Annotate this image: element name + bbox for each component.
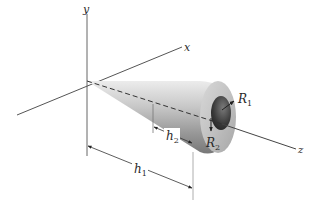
cone-inner-hole (211, 96, 231, 130)
cone-diagram: y x z R1 R2 h2 h1 (0, 0, 312, 211)
x-axis-label: x (184, 41, 191, 54)
r1-label: R1 (237, 92, 252, 108)
z-axis-label: z (297, 144, 304, 155)
y-axis-label: y (82, 3, 90, 16)
